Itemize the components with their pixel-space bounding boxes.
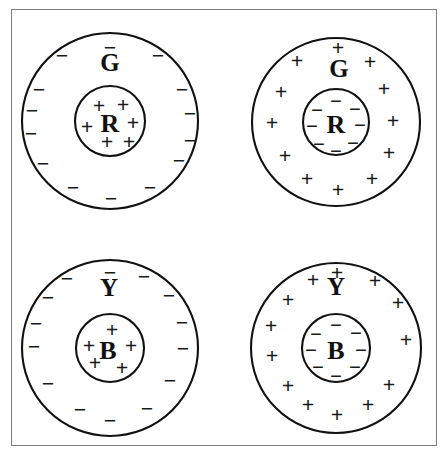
figure-root: −−−−−−−−−−−−−−G++++++R++++++++++++G−−−−−… xyxy=(0,0,447,457)
outer-shell-label-top-right: G xyxy=(329,55,348,82)
outer-charge-mark-top-right-11: + xyxy=(332,177,345,202)
outer-charge-mark-bottom-right-12: + xyxy=(331,402,344,427)
charge-panel-top-left: −−−−−−−−−−−−−−G++++++R xyxy=(22,33,198,211)
inner-charge-mark-bottom-right-7: − xyxy=(330,364,342,388)
inner-core-label-bottom-right: B xyxy=(327,336,344,365)
outer-charge-mark-top-left-2: − xyxy=(152,43,165,68)
inner-charge-mark-bottom-left-4: + xyxy=(116,355,129,380)
inner-charge-mark-top-right-6: − xyxy=(347,131,359,155)
outer-charge-mark-bottom-left-13: − xyxy=(104,408,117,433)
inner-core-label-top-left: R xyxy=(101,109,120,138)
outer-shell-label-bottom-right: Y xyxy=(327,273,345,300)
inner-core-label-top-right: R xyxy=(327,110,346,139)
outer-charge-mark-bottom-right-7: + xyxy=(266,343,279,368)
outer-charge-mark-bottom-left-1: − xyxy=(61,266,74,291)
outer-charge-mark-bottom-left-12: − xyxy=(141,396,154,421)
outer-charge-mark-bottom-right-9: + xyxy=(383,372,396,397)
outer-charge-mark-bottom-left-7: − xyxy=(28,334,41,359)
outer-charge-mark-top-left-5: − xyxy=(26,98,39,123)
charge-panel-top-right: ++++++++++++G−−−−−−−−R xyxy=(252,35,420,207)
outer-charge-mark-top-left-10: − xyxy=(173,148,186,173)
outer-charge-mark-top-left-13: − xyxy=(105,186,118,211)
outer-charge-mark-top-left-6: − xyxy=(184,101,197,126)
outer-charge-mark-top-right-8: + xyxy=(383,140,396,165)
outer-charge-mark-bottom-right-11: + xyxy=(362,392,375,417)
outer-charge-mark-top-right-7: + xyxy=(279,143,292,168)
inner-charge-mark-bottom-right-5: − xyxy=(312,355,324,379)
outer-charge-mark-top-left-7: − xyxy=(25,121,38,146)
outer-charge-mark-top-right-6: + xyxy=(387,108,400,133)
outer-charge-mark-top-right-1: + xyxy=(291,48,304,73)
outer-charge-mark-bottom-right-8: + xyxy=(282,373,295,398)
outer-charge-mark-top-right-3: + xyxy=(275,79,288,104)
outer-charge-mark-top-right-9: + xyxy=(301,166,314,191)
outer-charge-mark-top-right-2: + xyxy=(364,49,377,74)
outer-charge-mark-bottom-left-9: − xyxy=(42,371,55,396)
outer-charge-mark-bottom-right-6: + xyxy=(400,327,413,352)
outer-charge-mark-bottom-left-8: − xyxy=(177,336,190,361)
charge-panel-bottom-right: +++++++++++++Y−−−−−−−−B xyxy=(251,260,421,434)
outer-charge-mark-bottom-left-11: − xyxy=(74,397,87,422)
outer-charge-mark-top-left-8: − xyxy=(184,128,197,153)
inner-charge-mark-top-left-5: + xyxy=(123,129,136,154)
outer-charge-mark-top-left-12: − xyxy=(144,175,157,200)
inner-core-label-bottom-left: B xyxy=(99,336,116,365)
inner-charge-mark-bottom-right-6: − xyxy=(349,355,361,379)
outer-charge-mark-top-left-9: − xyxy=(37,151,50,176)
outer-charge-mark-bottom-left-10: − xyxy=(164,368,177,393)
outer-charge-mark-bottom-right-1: + xyxy=(307,267,320,292)
outer-charge-mark-bottom-right-5: + xyxy=(265,313,278,338)
outer-charge-mark-top-right-10: + xyxy=(366,166,379,191)
outer-charge-mark-bottom-right-3: + xyxy=(282,287,295,312)
outer-charge-mark-bottom-left-6: − xyxy=(176,310,189,335)
inner-charge-mark-top-right-7: − xyxy=(330,139,342,163)
outer-charge-mark-bottom-left-2: − xyxy=(138,264,151,289)
inner-charge-mark-top-left-2: + xyxy=(81,114,94,139)
inner-charge-mark-bottom-right-0: − xyxy=(330,313,342,337)
outer-charge-mark-top-right-5: + xyxy=(266,110,279,135)
outer-charge-mark-bottom-right-2: + xyxy=(369,268,382,293)
diagram-canvas: −−−−−−−−−−−−−−G++++++R++++++++++++G−−−−−… xyxy=(0,0,447,457)
outer-charge-mark-top-left-11: − xyxy=(67,175,80,200)
outer-shell-label-top-left: G xyxy=(100,49,119,76)
outer-charge-mark-bottom-left-4: − xyxy=(163,283,176,308)
outer-charge-mark-top-right-4: + xyxy=(378,76,391,101)
outer-charge-mark-bottom-right-10: + xyxy=(302,392,315,417)
outer-charge-mark-top-left-1: − xyxy=(56,43,69,68)
charge-panel-bottom-left: −−−−−−−−−−−−−−Y+++++B xyxy=(22,260,198,437)
outer-charge-mark-bottom-left-5: − xyxy=(30,311,43,336)
outer-charge-mark-top-left-4: − xyxy=(176,77,189,102)
outer-charge-mark-bottom-left-3: − xyxy=(42,285,55,310)
outer-charge-mark-bottom-right-4: + xyxy=(392,290,405,315)
inner-charge-mark-top-right-5: − xyxy=(313,132,325,156)
outer-shell-label-bottom-left: Y xyxy=(100,274,118,301)
